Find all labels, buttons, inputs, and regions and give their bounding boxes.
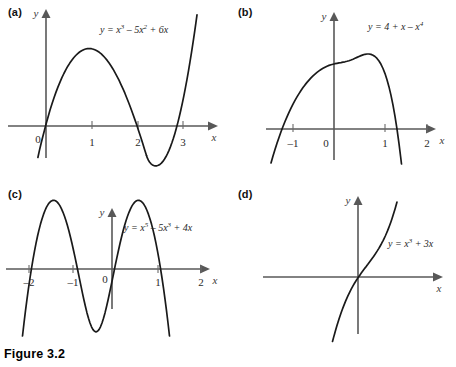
curve-d	[333, 202, 398, 342]
y-axis-name: y	[345, 194, 351, 206]
eq-part-0: y = x	[99, 24, 121, 35]
tick-label-neg1: –1	[67, 276, 79, 288]
tick-label-1: 1	[89, 136, 95, 148]
y-axis-arrow	[108, 208, 117, 217]
x-axis-name: x	[439, 134, 445, 146]
panel-d-label: (d)	[238, 188, 253, 200]
panel-a-plot: 0 1 2 3 x y y = x3 – 5x2 + 6x	[0, 0, 228, 184]
panel-b-ticks	[293, 124, 427, 132]
y-axis-name: y	[33, 7, 39, 19]
panel-d: (d) x y y = x3 + 3x	[228, 184, 456, 344]
tick-label-2: 2	[198, 276, 204, 288]
eq-part-0: y = x	[387, 238, 409, 249]
panel-a: (a) 0 1 2 3 x y y	[0, 0, 228, 184]
panel-d-plot: x y y = x3 + 3x	[228, 184, 456, 344]
y-axis-arrow	[330, 12, 339, 21]
panel-b-tick-labels: –1 0 1 2	[287, 137, 430, 149]
eq-part-0: y = 4 + x – x	[367, 21, 420, 32]
figure-caption: Figure 3.2	[4, 347, 65, 361]
eq-part-1: 4	[420, 20, 424, 28]
x-axis-name: x	[212, 274, 218, 286]
panel-b-plot: –1 0 1 2 x y y = 4 + x – x4	[228, 0, 456, 184]
x-axis-arrow	[433, 273, 443, 282]
y-axis-name: y	[99, 206, 105, 218]
tick-label-0: 0	[323, 137, 329, 149]
tick-label-0: 0	[35, 133, 41, 145]
panel-b-equation: y = 4 + x – x4	[367, 20, 424, 32]
tick-label-neg2: –2	[23, 276, 35, 288]
y-axis-arrow	[354, 196, 363, 205]
tick-label-2: 2	[135, 136, 141, 148]
panel-b-label: (b)	[238, 6, 253, 18]
eq-part-2: + 3x	[412, 238, 434, 249]
tick-label-3: 3	[180, 136, 186, 148]
x-axis-arrow	[208, 122, 218, 131]
panel-a-equation: y = x3 – 5x2 + 6x	[99, 23, 169, 35]
curve-a-continued	[147, 15, 198, 166]
panel-a-tick-labels: 0 1 2 3	[35, 133, 186, 148]
y-axis-arrow	[42, 9, 51, 18]
eq-part-0: y = x	[123, 222, 145, 233]
tick-label-neg1: –1	[287, 137, 299, 149]
tick-label-2: 2	[424, 137, 430, 149]
panel-c-plot: –2 –1 0 1 2 x y y = x5 – 5x3 + 4x	[0, 184, 228, 344]
panel-c-label: (c)	[8, 188, 22, 200]
eq-part-4: + 4x	[171, 222, 193, 233]
panel-d-axes	[263, 196, 443, 334]
y-axis-name: y	[321, 10, 327, 22]
eq-part-4: + 6x	[147, 24, 169, 35]
eq-part-2: – 5x	[124, 24, 144, 35]
panel-a-label: (a)	[8, 6, 22, 18]
panel-d-equation: y = x3 + 3x	[387, 237, 434, 249]
panel-c-equation: y = x5 – 5x3 + 4x	[123, 221, 193, 233]
panel-b: (b) –1 0 1 2 x y y = 4 +	[228, 0, 456, 184]
x-axis-name: x	[211, 131, 217, 143]
tick-label-1: 1	[155, 276, 161, 288]
tick-label-0: 0	[102, 273, 108, 285]
panel-c: (c) –2 –1 0 1 2 x y	[0, 184, 228, 344]
x-axis-name: x	[436, 282, 442, 294]
figure-3-2: (a) 0 1 2 3 x y y	[0, 0, 456, 367]
eq-part-2: – 5x	[148, 222, 168, 233]
tick-label-1: 1	[382, 137, 388, 149]
